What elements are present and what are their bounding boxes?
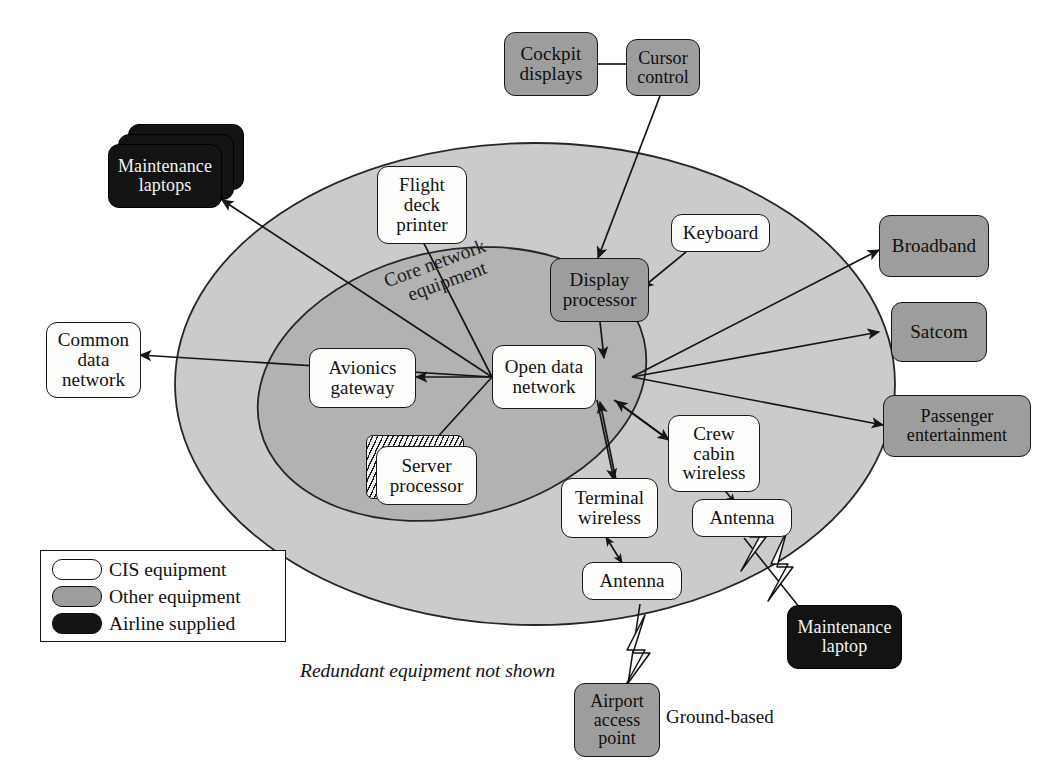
node-open-data-network-line1: Open data (497, 357, 591, 377)
legend-row-cis: CIS equipment (41, 556, 285, 583)
legend-row-airline: Airline supplied (41, 610, 285, 637)
node-flight-deck-printer-line3: printer (382, 215, 462, 235)
node-passenger-entertainment-line2: entertainment (888, 426, 1026, 445)
node-avionics-gateway-line2: gateway (314, 378, 411, 398)
node-airport-access-point[interactable]: Airport access point (574, 683, 660, 757)
node-passenger-entertainment[interactable]: Passenger entertainment (883, 395, 1031, 457)
node-maintenance-laptops-line2: laptops (113, 176, 217, 195)
node-antenna-crew[interactable]: Antenna (692, 499, 792, 537)
node-cockpit-displays-line2: displays (509, 64, 593, 84)
node-cockpit-displays[interactable]: Cockpit displays (504, 32, 598, 96)
node-antenna-terminal[interactable]: Antenna (582, 562, 682, 600)
legend-swatch-airline-supplied (52, 613, 102, 634)
node-crew-cabin-wireless-line2: cabin (673, 444, 755, 464)
node-terminal-wireless[interactable]: Terminal wireless (561, 478, 658, 538)
node-cursor-control-line2: control (631, 68, 695, 87)
node-keyboard[interactable]: Keyboard (671, 214, 770, 252)
node-open-data-network-line2: network (497, 377, 591, 397)
diagram-canvas: Core network equipment Cockpit displays … (0, 0, 1064, 770)
node-crew-cabin-wireless-line1: Crew (673, 424, 755, 444)
node-display-processor-line2: processor (555, 290, 644, 310)
node-avionics-gateway-line1: Avionics (314, 358, 411, 378)
node-server-processor[interactable]: Server processor (376, 446, 477, 505)
node-passenger-entertainment-line1: Passenger (888, 407, 1026, 426)
node-keyboard-line1: Keyboard (676, 223, 765, 243)
ground-based-label: Ground-based (666, 706, 774, 728)
node-flight-deck-printer-line1: Flight (382, 175, 462, 195)
node-server-processor-line2: processor (381, 476, 472, 496)
node-airport-access-point-line2: access (579, 711, 655, 730)
node-maintenance-laptop-line1: Maintenance (792, 618, 897, 637)
node-broadband[interactable]: Broadband (879, 215, 989, 277)
node-satcom-line1: Satcom (896, 322, 982, 342)
node-crew-cabin-wireless[interactable]: Crew cabin wireless (668, 415, 760, 492)
node-antenna-crew-line1: Antenna (697, 508, 787, 528)
node-antenna-terminal-line1: Antenna (587, 571, 677, 591)
legend-label-other-equipment: Other equipment (109, 586, 241, 608)
node-cursor-control[interactable]: Cursor control (626, 39, 700, 96)
node-airport-access-point-line1: Airport (579, 692, 655, 711)
node-display-processor[interactable]: Display processor (550, 258, 649, 322)
legend-row-other: Other equipment (41, 583, 285, 610)
node-terminal-wireless-line2: wireless (566, 508, 653, 528)
node-avionics-gateway[interactable]: Avionics gateway (309, 348, 416, 408)
node-satcom[interactable]: Satcom (891, 302, 987, 362)
node-flight-deck-printer[interactable]: Flight deck printer (377, 166, 467, 244)
node-maintenance-laptops-line1: Maintenance (113, 157, 217, 176)
node-terminal-wireless-line1: Terminal (566, 488, 653, 508)
legend-swatch-other-equipment (52, 586, 102, 607)
node-maintenance-laptop-line2: laptop (792, 637, 897, 656)
node-maintenance-laptops[interactable]: Maintenance laptops (108, 144, 222, 208)
node-display-processor-line1: Display (555, 270, 644, 290)
node-common-data-network-line1: Common (51, 330, 136, 350)
legend-label-airline-supplied: Airline supplied (109, 613, 235, 635)
node-common-data-network-line3: network (51, 370, 136, 390)
node-airport-access-point-line3: point (579, 729, 655, 748)
node-common-data-network-line2: data (51, 350, 136, 370)
node-flight-deck-printer-line2: deck (382, 195, 462, 215)
node-broadband-line1: Broadband (884, 236, 984, 256)
legend-label-cis-equipment: CIS equipment (109, 559, 227, 581)
node-crew-cabin-wireless-line3: wireless (673, 463, 755, 483)
node-maintenance-laptop[interactable]: Maintenance laptop (787, 605, 902, 669)
legend-swatch-cis-equipment (52, 559, 102, 580)
node-cockpit-displays-line1: Cockpit (509, 44, 593, 64)
redundancy-footnote: Redundant equipment not shown (300, 660, 555, 682)
node-open-data-network[interactable]: Open data network (492, 345, 596, 409)
node-cursor-control-line1: Cursor (631, 49, 695, 68)
legend: CIS equipment Other equipment Airline su… (40, 550, 286, 642)
node-common-data-network[interactable]: Common data network (46, 322, 141, 398)
node-server-processor-line1: Server (381, 456, 472, 476)
